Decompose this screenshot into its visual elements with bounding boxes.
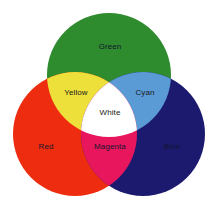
label-yellow: Yellow: [64, 88, 88, 97]
venn-diagram-svg: Green Yellow Cyan White Red Magenta Blue: [0, 0, 218, 214]
label-cyan: Cyan: [135, 88, 154, 97]
label-white: White: [100, 108, 121, 117]
label-green: Green: [99, 42, 122, 51]
label-red: Red: [39, 142, 54, 151]
color-mixing-diagram: Green Yellow Cyan White Red Magenta Blue: [0, 0, 218, 214]
label-blue: Blue: [164, 142, 181, 151]
label-magenta: Magenta: [94, 142, 126, 151]
